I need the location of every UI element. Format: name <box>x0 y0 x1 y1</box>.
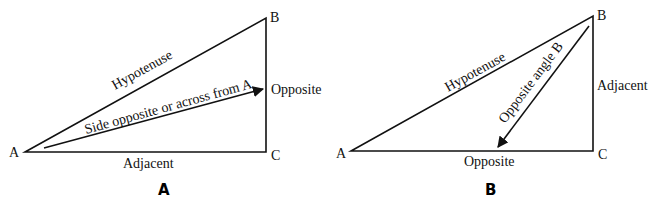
opposite-label: Opposite <box>271 82 322 97</box>
vertex-a-label: A <box>9 145 20 160</box>
panel-label: B <box>485 181 496 199</box>
vertex-b-label: B <box>270 10 279 25</box>
triangle-b <box>351 16 593 151</box>
vertex-c-label: C <box>598 147 607 162</box>
vertex-c-label: C <box>271 148 280 163</box>
hypotenuse-label: Hypotenuse <box>109 47 175 93</box>
arrow-label: Opposite angle B <box>495 39 565 126</box>
panel-b: A B C Hypotenuse Adjacent Opposite Oppos… <box>336 8 648 199</box>
adjacent-label: Adjacent <box>597 78 648 93</box>
opposite-label: Opposite <box>464 154 515 169</box>
hypotenuse-label: Hypotenuse <box>442 49 508 95</box>
adjacent-label: Adjacent <box>123 156 174 171</box>
arrow-opposite-a <box>44 89 263 148</box>
panel-label: A <box>158 181 170 199</box>
vertex-b-label: B <box>597 8 606 23</box>
vertex-a-label: A <box>336 146 347 161</box>
panel-a: A B C Hypotenuse Adjacent Opposite Side … <box>9 10 322 199</box>
trig-triangles-diagram: A B C Hypotenuse Adjacent Opposite Side … <box>0 0 658 204</box>
